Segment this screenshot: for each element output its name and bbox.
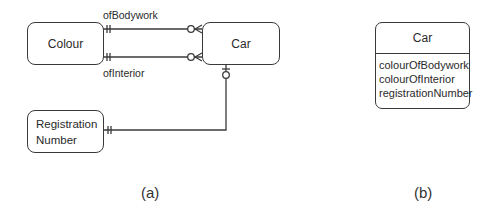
class-attribute: colourOfBodywork <box>379 58 469 72</box>
class-name: Car <box>376 23 469 54</box>
class-box-car: Car colourOfBodywork colourOfInterior re… <box>375 22 470 109</box>
zero-circle-icon <box>188 26 195 33</box>
entity-label-line: Number <box>36 132 77 148</box>
entity-registration-number: Registration Number <box>27 110 104 153</box>
zero-circle-icon <box>223 72 230 79</box>
entity-label: Colour <box>48 37 83 51</box>
entity-colour: Colour <box>27 22 104 65</box>
class-attribute: registrationNumber <box>379 86 469 100</box>
relationship-label-ofinterior: ofInterior <box>103 67 144 79</box>
entity-car: Car <box>202 22 280 65</box>
relationship-label-ofbodywork: ofBodywork <box>103 9 158 21</box>
caption-a: (a) <box>141 184 159 201</box>
class-attributes: colourOfBodywork colourOfInterior regist… <box>376 54 469 100</box>
entity-label: Car <box>231 37 250 51</box>
entity-label-line: Registration <box>36 116 97 132</box>
class-attribute: colourOfInterior <box>379 72 469 86</box>
zero-circle-icon <box>188 54 195 61</box>
caption-b: (b) <box>414 184 432 201</box>
